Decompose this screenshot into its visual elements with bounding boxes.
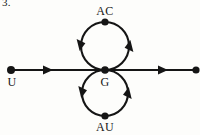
node-marker-top bbox=[101, 18, 108, 25]
graph-canvas bbox=[0, 0, 200, 135]
figure-diagram: 3. AC G AU U bbox=[0, 0, 200, 135]
node-marker-right-endpoint bbox=[192, 66, 199, 73]
node-label-left: U bbox=[7, 76, 16, 88]
node-marker-bottom bbox=[101, 112, 108, 119]
node-label-bottom: AU bbox=[96, 121, 114, 133]
node-marker-center-junction bbox=[101, 66, 109, 74]
arrowhead-line-left bbox=[43, 66, 53, 75]
arrowhead-line-right bbox=[158, 66, 168, 75]
edge-loop-upper bbox=[81, 22, 129, 70]
node-label-top: AC bbox=[96, 5, 113, 17]
node-label-center: G bbox=[100, 76, 109, 88]
node-marker-left-endpoint bbox=[7, 66, 15, 74]
